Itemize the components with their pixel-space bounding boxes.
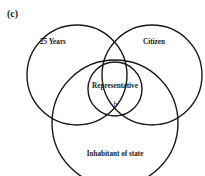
element-b-label: b [113, 100, 117, 109]
label-citizen: Citizen [143, 38, 165, 46]
label-representative: Representative [92, 82, 138, 90]
label-25-years: 25 Years [40, 38, 66, 46]
label-inhabitant-of-state: Inhabitant of state [87, 150, 144, 158]
panel-label: (c) [7, 8, 18, 20]
circle-inhabitant-of-state [52, 60, 178, 176]
venn-diagram: (c) 25 Years Citizen Inhabitant of state… [0, 0, 205, 176]
